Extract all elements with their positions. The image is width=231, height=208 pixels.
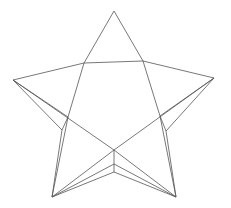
star-edge [68,63,84,117]
star-edge [52,150,114,197]
star-edge [52,164,114,197]
star-edge [13,80,62,130]
star-edge [114,164,176,197]
star-edge [84,11,114,63]
star-wireframe [0,0,231,208]
star-edge [13,80,68,117]
star-edge [166,78,214,131]
star-edge [143,61,214,78]
star-edge [52,130,62,197]
star-edge [84,61,143,63]
star-edge [114,150,176,197]
star-edge [114,11,143,61]
star-edge [52,117,68,197]
star-edge [160,116,176,197]
star-edge [114,172,176,197]
star-edge [13,63,84,80]
star-edge [143,61,160,116]
star-edge [160,78,214,116]
star-edge [160,116,166,131]
star-edge [166,131,176,197]
star-edge [52,172,114,197]
